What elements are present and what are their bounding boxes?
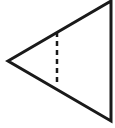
diagram-canvas: [0, 0, 115, 128]
triangle-shape: [8, 1, 111, 121]
